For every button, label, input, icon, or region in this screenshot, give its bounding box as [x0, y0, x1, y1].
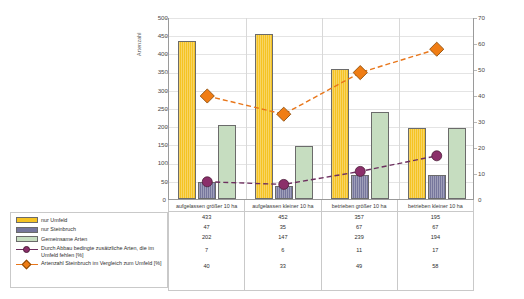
data-table-column: 195671941758 — [397, 212, 474, 291]
gridline — [169, 54, 473, 55]
bar — [255, 34, 273, 199]
bar — [408, 128, 426, 199]
y-axis-right-tick: 40 — [478, 93, 500, 99]
data-table-cell: 47 — [169, 222, 244, 232]
category-label: betrieben kleiner 10 ha — [397, 200, 474, 212]
legend-swatch-icon — [16, 217, 38, 223]
y-axis-right-zero: 0 — [478, 196, 498, 203]
chart-legend: nur Umfeldnur SteinbruchGemeinsame Arten… — [10, 212, 168, 288]
data-table-cell: 202 — [169, 232, 244, 242]
data-table-cell: 67 — [322, 222, 397, 232]
series-point-circle — [432, 151, 442, 161]
data-table-cell: 67 — [398, 222, 473, 232]
data-table-cell: 58 — [398, 258, 473, 274]
bottom-block: nur Umfeldnur SteinbruchGemeinsame Arten… — [0, 212, 524, 299]
category-separator — [322, 18, 323, 199]
legend-item[interactable]: nur Umfeld — [14, 216, 165, 224]
gridline — [169, 145, 473, 146]
y-axis-right-tick: 60 — [478, 41, 500, 47]
data-table-cell: 195 — [398, 212, 473, 222]
data-table: 4334720274045235147633357672391149195671… — [168, 212, 474, 291]
plot-block: Artenzahl 50045040035030025020015010050 … — [0, 0, 524, 206]
gridline — [169, 109, 473, 110]
data-table-cell: 452 — [245, 212, 320, 222]
data-table-cell: 357 — [322, 212, 397, 222]
legend-item[interactable]: Gemeinsame Arten — [14, 235, 165, 243]
bar — [331, 69, 349, 199]
data-table-cell: 49 — [322, 258, 397, 274]
category-label: aufgelassen größer 10 ha — [168, 200, 244, 212]
bar — [275, 186, 293, 199]
legend-item-label: Artenzahl Steinbruch im Vergleich zum Um… — [41, 260, 165, 267]
bar — [295, 146, 313, 200]
category-label: aufgelassen kleiner 10 ha — [244, 200, 320, 212]
bar — [178, 41, 196, 199]
chart-root: Artenzahl 50045040035030025020015010050 … — [0, 0, 524, 299]
category-separator — [246, 18, 247, 199]
legend-item-label: nur Umfeld — [41, 216, 165, 223]
legend-item-label: Gemeinsame Arten — [41, 235, 165, 242]
legend-swatch-icon — [16, 236, 38, 242]
bar — [218, 125, 236, 199]
y-axis-right-tick: 50 — [478, 67, 500, 73]
data-table-cell: 433 — [169, 212, 244, 222]
y-axis-title: Artenzahl — [136, 14, 148, 74]
y-axis-right-tick: 70 — [478, 15, 500, 21]
legend-marker-symbol — [23, 246, 30, 253]
category-separator — [399, 18, 400, 199]
y-axis-right-tick: 20 — [478, 145, 500, 151]
data-table-column: 45235147633 — [244, 212, 320, 291]
data-table-cell: 239 — [322, 232, 397, 242]
data-table-column: 357672391149 — [321, 212, 397, 291]
bar — [371, 112, 389, 199]
legend-item-label: nur Steinbruch — [41, 226, 165, 233]
data-table-cell: 147 — [245, 232, 320, 242]
gridline — [169, 73, 473, 74]
legend-swatch-icon — [16, 227, 38, 233]
gridline — [169, 91, 473, 92]
data-table-cell: 33 — [245, 258, 320, 274]
legend-marker-symbol — [22, 259, 32, 269]
data-table-cell: 194 — [398, 232, 473, 242]
legend-diamond-marker-icon — [16, 260, 38, 269]
bar — [198, 182, 216, 199]
y-axis-right-tick: 30 — [478, 119, 500, 125]
plot-area — [168, 18, 474, 200]
gridline — [169, 127, 473, 128]
legend-item[interactable]: Artenzahl Steinbruch im Vergleich zum Um… — [14, 260, 165, 269]
legend-item[interactable]: Durch Abbau bedingte zusätzliche Arten, … — [14, 245, 165, 259]
data-table-cell: 7 — [169, 242, 244, 258]
data-table-cell: 35 — [245, 222, 320, 232]
bar — [351, 175, 369, 199]
data-table-column: 43347202740 — [168, 212, 244, 291]
data-table-cell: 11 — [322, 242, 397, 258]
legend-circle-marker-icon — [16, 245, 38, 254]
category-label-row: aufgelassen größer 10 haaufgelassen klei… — [168, 200, 474, 212]
gridline — [169, 164, 473, 165]
bar — [448, 128, 466, 199]
category-label: betrieben größer 10 ha — [321, 200, 397, 212]
data-table-cell: 17 — [398, 242, 473, 258]
data-table-cell: 40 — [169, 258, 244, 274]
y-axis-left-zero: 0 — [146, 196, 166, 203]
legend-item-label: Durch Abbau bedingte zusätzliche Arten, … — [41, 245, 165, 259]
bar — [428, 175, 446, 199]
gridline — [169, 36, 473, 37]
data-table-cell: 6 — [245, 242, 320, 258]
gridline — [169, 18, 473, 19]
legend-item[interactable]: nur Steinbruch — [14, 226, 165, 234]
y-axis-right-tick: 10 — [478, 171, 500, 177]
